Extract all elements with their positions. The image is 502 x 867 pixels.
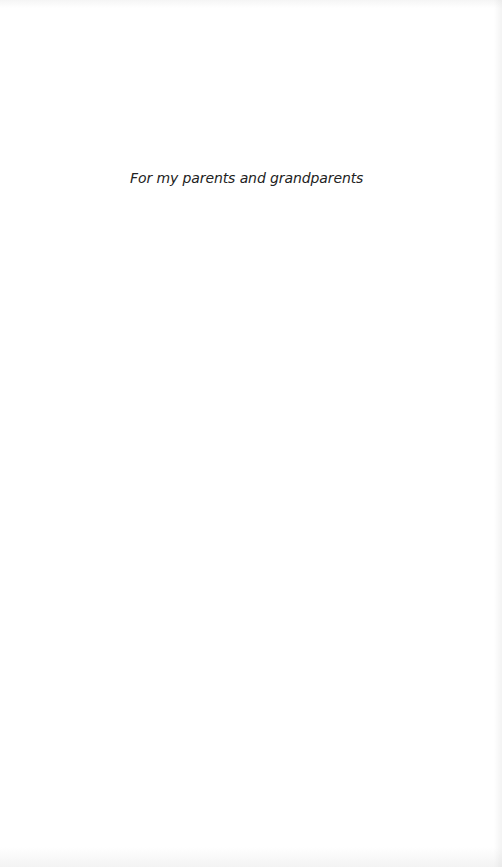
book-page: For my parents and grandparents xyxy=(0,0,502,867)
dedication-text: For my parents and grandparents xyxy=(130,169,363,187)
scan-edge-shading-bottom xyxy=(0,847,502,867)
scan-edge-shading-right xyxy=(494,0,502,867)
scan-edge-shading-top xyxy=(0,0,502,8)
